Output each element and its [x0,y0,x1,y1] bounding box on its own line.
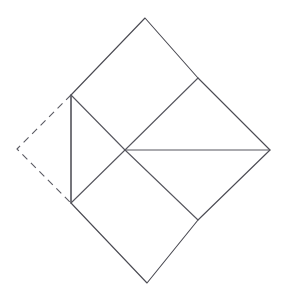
geometry-figure-svg [0,0,284,299]
figure-canvas [0,0,284,299]
